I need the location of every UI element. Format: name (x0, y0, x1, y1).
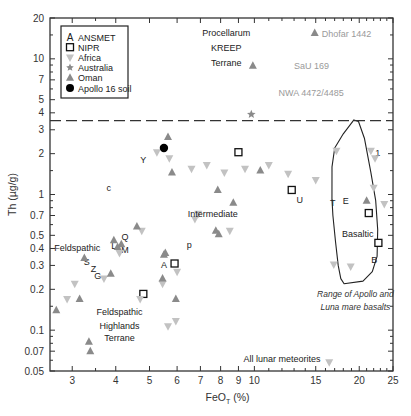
x-tick-label: 6 (174, 375, 180, 386)
oman-point (86, 347, 94, 355)
oman-point (52, 306, 60, 314)
y-tick-label: 7 (38, 74, 44, 85)
africa-point (71, 281, 79, 289)
y-tick-label: 0.2 (30, 284, 44, 295)
y-tick-label: 3 (38, 124, 44, 135)
x-tick-label: 15 (310, 375, 322, 386)
square-icon (67, 44, 74, 51)
legend-item: NIPR (67, 43, 101, 53)
oman-point (133, 222, 141, 230)
africa-point (153, 149, 161, 157)
africa-point (325, 359, 333, 367)
y-tick-label: 1 (38, 189, 44, 200)
legend-label: Africa (78, 53, 101, 63)
africa-point (371, 155, 379, 163)
nipr-point (235, 149, 242, 156)
legend-label: Oman (78, 73, 103, 83)
ansmet-point: Y (140, 155, 146, 165)
oman-point (311, 29, 319, 37)
oman-point (76, 294, 84, 302)
ansmet-point: Q (121, 232, 128, 242)
ansmet-point: p (187, 240, 192, 250)
australia-point (247, 110, 256, 118)
ansmet-point: A (161, 260, 167, 270)
africa-point (347, 263, 355, 271)
region-label: Intermediate (188, 209, 238, 219)
africa-point (164, 323, 172, 331)
filled-circle-icon (66, 84, 74, 92)
africa-point (241, 166, 249, 174)
africa-point (367, 148, 375, 156)
africa-point (330, 261, 338, 269)
region-label: KREEP (211, 43, 242, 53)
y-tick-label: 10 (33, 53, 45, 64)
region-label: Procellarum (202, 28, 250, 38)
oman-point (107, 269, 115, 277)
y-tick-label: 4 (38, 107, 44, 118)
africa-point (226, 228, 234, 236)
ansmet-point: B (371, 255, 377, 265)
legend-label: Apollo 16 soil (78, 84, 132, 94)
ansmet-point: c (107, 183, 112, 193)
y-axis-label: Th (µg/g) (6, 173, 18, 216)
africa-point (203, 162, 211, 170)
oman-point (85, 337, 93, 345)
x-tick-label: 5 (147, 375, 153, 386)
y-tick-label: 0.05 (25, 366, 45, 377)
africa-point (173, 269, 181, 277)
oman-point (363, 196, 371, 204)
x-tick-label: 10 (249, 375, 261, 386)
africa-point (159, 281, 167, 289)
named-meteorite-label: Dhofar 1442 (322, 29, 372, 39)
region-label: Feldspathic (54, 243, 101, 253)
y-tick-label: 0.5 (30, 230, 44, 241)
africa-point (63, 296, 71, 304)
scatter-chart: ABcEGLMpQSTUYZ1Dhofar 1442SaU 169NWA 447… (0, 0, 411, 416)
africa-point (370, 185, 378, 193)
legend-label: ANSMET (78, 33, 116, 43)
nipr-point (288, 186, 295, 193)
x-tick-label: 3 (69, 375, 75, 386)
oman-point (249, 61, 257, 69)
legend-label: NIPR (78, 43, 100, 53)
oman-point (229, 198, 237, 206)
africa-point (265, 162, 273, 170)
ansmet-point: E (343, 196, 349, 206)
africa-point (172, 318, 180, 326)
region-label: Terrane (104, 333, 135, 343)
x-tick-label: 7 (198, 375, 204, 386)
africa-point (165, 155, 173, 163)
mare-basalt-annotation: Luna mare basalts (320, 302, 391, 312)
ansmet-point: Z (91, 264, 97, 274)
legend-label: Australia (78, 63, 113, 73)
ansmet-point: U (297, 195, 304, 205)
x-tick-label: 8 (218, 375, 224, 386)
region-label: Feldspathic (96, 307, 143, 317)
oman-point (172, 294, 180, 302)
y-tick-label: 0.1 (30, 325, 44, 336)
oman-point (214, 185, 222, 193)
y-tick-label: 0.07 (25, 346, 45, 357)
y-tick-label: 0.4 (30, 243, 44, 254)
nipr-point (171, 260, 178, 267)
y-tick-label: 20 (33, 13, 45, 24)
region-label: Highlands (99, 321, 140, 331)
named-meteorite-label: SaU 169 (294, 61, 329, 71)
oman-point (256, 166, 264, 174)
x-axis-label: FeOT (%) (206, 391, 250, 405)
oman-point (168, 168, 176, 176)
letter-a-icon: A (67, 32, 74, 43)
x-tick-label: 9 (236, 375, 242, 386)
africa-point (380, 201, 388, 209)
x-tick-label: 25 (387, 375, 399, 386)
x-tick-label: 4 (113, 375, 119, 386)
y-tick-label: 5 (38, 94, 44, 105)
ansmet-point: T (330, 198, 336, 208)
mare-basalt-annotation: Range of Apollo and (317, 289, 394, 299)
apollo16-soil-point (160, 144, 168, 152)
y-tick-label: 0.7 (30, 210, 44, 221)
africa-point (188, 166, 196, 174)
nipr-point (375, 239, 382, 246)
y-tick-label: 0.3 (30, 260, 44, 271)
x-tick-label: 20 (354, 375, 366, 386)
